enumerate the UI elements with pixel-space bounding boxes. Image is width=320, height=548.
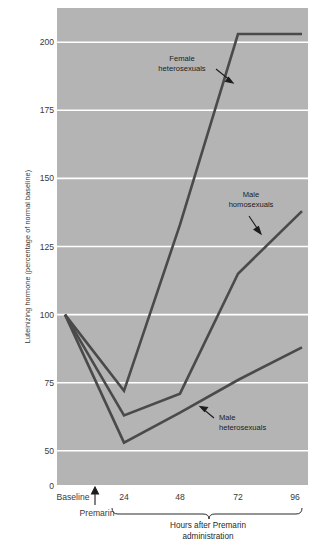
series-label-male-hetero-line1: Male — [219, 413, 235, 422]
x-tick-96: 96 — [290, 492, 300, 502]
series-label-female-heterosexuals: Female heterosexuals — [158, 54, 205, 74]
x-axis-title-part2: administration — [183, 532, 234, 541]
series-label-male-homosexuals: Male homosexuals — [229, 190, 274, 210]
x-axis-title-part1: Hours after Premarin — [170, 521, 246, 530]
x-axis-title: Hours after Premarin administration — [170, 520, 246, 542]
series-label-male-heterosexuals: Male heterosexuals — [219, 413, 266, 433]
premarin-label: Premarin — [80, 508, 115, 518]
x-tick-24: 24 — [119, 492, 129, 502]
series-label-male-homo-line2: homosexuals — [229, 200, 274, 209]
x-axis-ticks: Baseline 24 48 72 96 — [0, 0, 320, 548]
x-tick-baseline: Baseline — [57, 492, 90, 502]
chart-figure: 200 175 150 125 100 75 50 0 Luteinizing … — [0, 0, 320, 548]
series-label-male-homo-line1: Male — [243, 190, 259, 199]
x-tick-72: 72 — [233, 492, 243, 502]
series-label-female-line2: heterosexuals — [158, 64, 205, 73]
series-label-male-hetero-line2: heterosexuals — [219, 423, 266, 432]
x-tick-48: 48 — [175, 492, 185, 502]
series-label-female-line1: Female — [169, 54, 194, 63]
